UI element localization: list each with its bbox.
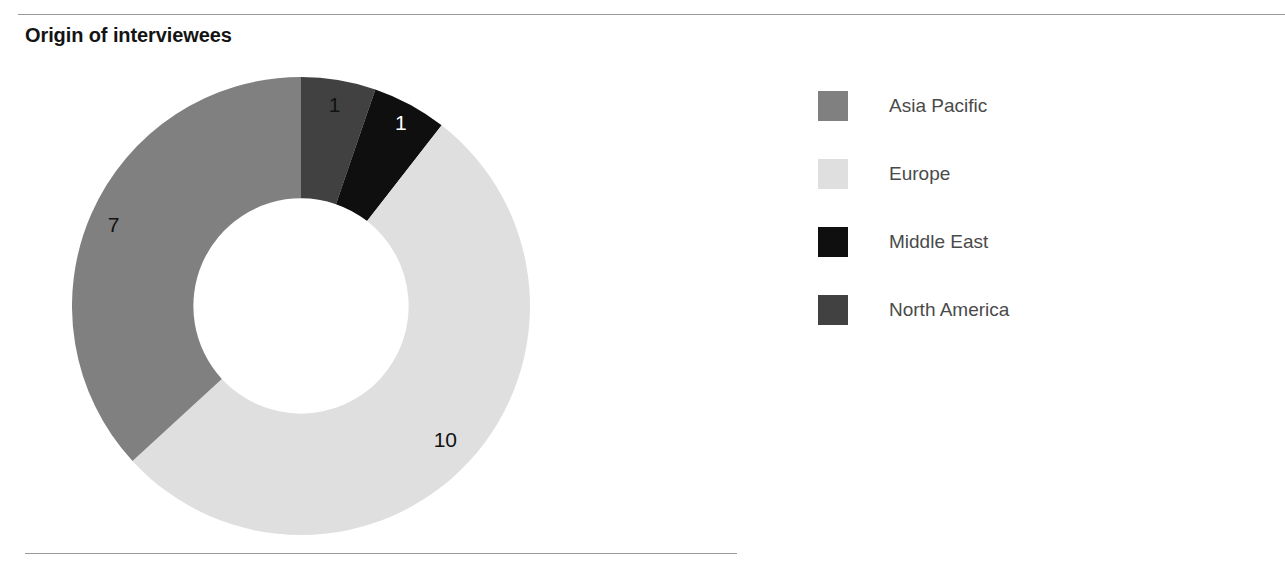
legend-item-asia-pacific: Asia Pacific <box>818 72 1198 140</box>
bottom-divider-rule <box>25 553 737 554</box>
chart-legend: Asia Pacific Europe Middle East North Am… <box>818 72 1198 344</box>
slice-label-north-america: 1 <box>329 94 341 115</box>
donut-chart-svg <box>72 77 530 535</box>
legend-label-asia-pacific: Asia Pacific <box>889 95 987 117</box>
donut-chart: 1 1 10 7 <box>72 77 530 535</box>
legend-swatch-north-america <box>818 295 848 325</box>
chart-title: Origin of interviewees <box>25 24 232 47</box>
donut-slice-group <box>72 77 530 535</box>
slice-label-middle-east: 1 <box>395 111 407 132</box>
legend-label-middle-east: Middle East <box>889 231 988 253</box>
donut-slice-asia-pacific <box>72 77 301 461</box>
top-divider-rule <box>18 14 1285 15</box>
legend-item-europe: Europe <box>818 140 1198 208</box>
slice-label-asia-pacific: 7 <box>108 213 120 234</box>
legend-swatch-asia-pacific <box>818 91 848 121</box>
legend-item-north-america: North America <box>818 276 1198 344</box>
legend-item-middle-east: Middle East <box>818 208 1198 276</box>
slice-label-europe: 10 <box>434 428 457 449</box>
legend-label-north-america: North America <box>889 299 1009 321</box>
legend-swatch-europe <box>818 159 848 189</box>
legend-swatch-middle-east <box>818 227 848 257</box>
legend-label-europe: Europe <box>889 163 950 185</box>
